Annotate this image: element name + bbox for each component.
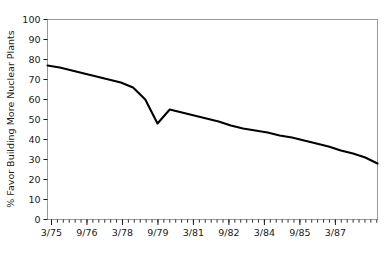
x-axis-tick-labels: 3/759/763/789/793/819/823/849/853/87 (41, 227, 346, 238)
x-tick-label: 3/81 (183, 227, 204, 238)
x-tick-label: 9/85 (289, 227, 310, 238)
x-tick-label: 3/78 (112, 227, 133, 238)
chart-svg: 0102030405060708090100 3/759/763/789/793… (0, 0, 391, 257)
x-axis-major-ticks (52, 220, 336, 226)
y-tick-label: 0 (34, 214, 40, 225)
y-tick-label: 60 (28, 94, 40, 105)
nuclear-plants-opinion-chart: 0102030405060708090100 3/759/763/789/793… (0, 0, 391, 257)
y-tick-label: 100 (22, 14, 40, 25)
x-tick-label: 9/79 (147, 227, 168, 238)
y-tick-label: 50 (28, 114, 40, 125)
y-tick-label: 20 (28, 174, 40, 185)
y-tick-label: 80 (28, 54, 40, 65)
y-axis-tick-labels: 0102030405060708090100 (22, 14, 40, 225)
y-tick-label: 40 (28, 134, 40, 145)
x-tick-label: 3/84 (254, 227, 275, 238)
y-axis-title: % Favor Building More Nuclear Plants (5, 30, 16, 207)
y-tick-label: 30 (28, 154, 40, 165)
y-tick-label: 90 (28, 34, 40, 45)
x-tick-label: 3/75 (41, 227, 62, 238)
y-axis-ticks (44, 20, 48, 220)
x-tick-label: 9/76 (76, 227, 97, 238)
x-tick-label: 9/82 (218, 227, 239, 238)
y-tick-label: 70 (28, 74, 40, 85)
data-series-line (48, 66, 378, 164)
x-tick-label: 3/87 (325, 227, 346, 238)
y-tick-label: 10 (28, 194, 40, 205)
